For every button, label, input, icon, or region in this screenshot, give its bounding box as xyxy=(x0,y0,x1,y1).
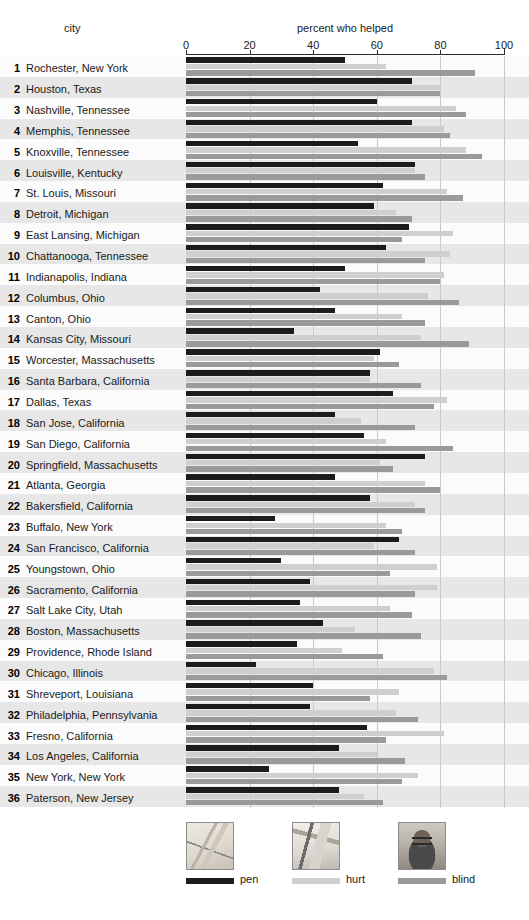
bar-pen xyxy=(186,787,339,792)
city-name: Louisville, Kentucky xyxy=(26,167,123,179)
legend-item-blind: blind xyxy=(398,822,504,902)
bar-blind xyxy=(186,466,393,471)
list-item: 33Fresno, California xyxy=(0,725,186,746)
rank-number: 11 xyxy=(0,271,26,283)
bar-pen xyxy=(186,620,323,625)
bar-blind xyxy=(186,383,421,388)
bar-hurt xyxy=(186,627,355,632)
bar-hurt xyxy=(186,293,428,298)
bar-blind xyxy=(186,675,447,680)
city-name: Rochester, New York xyxy=(26,62,128,74)
list-item: 14Kansas City, Missouri xyxy=(0,329,186,350)
list-item: 27Salt Lake City, Utah xyxy=(0,600,186,621)
city-name: Boston, Massachusetts xyxy=(26,625,140,637)
rank-number: 2 xyxy=(0,83,26,95)
bar-blind xyxy=(186,133,450,138)
bar-blind xyxy=(186,800,383,805)
bar-blind xyxy=(186,571,390,576)
rank-number: 28 xyxy=(0,625,26,637)
legend-swatch-blind xyxy=(398,878,446,884)
list-item: 25Youngstown, Ohio xyxy=(0,558,186,579)
list-item: 1Rochester, New York xyxy=(0,58,186,79)
city-name: Worcester, Massachusetts xyxy=(26,354,155,366)
city-name: Detroit, Michigan xyxy=(26,208,109,220)
rank-number: 27 xyxy=(0,604,26,616)
blind-photo-art xyxy=(399,823,445,869)
chart-legend: penhurtblind xyxy=(186,822,504,902)
city-name: Memphis, Tennessee xyxy=(26,125,130,137)
legend-item-hurt: hurt xyxy=(292,822,398,902)
bar-pen xyxy=(186,245,386,250)
city-name: Columbus, Ohio xyxy=(26,292,105,304)
bar-blind xyxy=(186,300,459,305)
bar-hurt xyxy=(186,85,440,90)
rank-number: 33 xyxy=(0,730,26,742)
bar-hurt xyxy=(186,418,361,423)
list-item: 10Chattanooga, Tennessee xyxy=(0,246,186,267)
city-name: Indianapolis, Indiana xyxy=(26,271,127,283)
rank-number: 18 xyxy=(0,417,26,429)
city-name: Youngstown, Ohio xyxy=(26,563,115,575)
rank-number: 4 xyxy=(0,125,26,137)
city-name: Chicago, Illinois xyxy=(26,667,103,679)
bar-blind xyxy=(186,341,469,346)
bar-blind xyxy=(186,779,402,784)
bar-pen xyxy=(186,662,256,667)
rank-number: 24 xyxy=(0,542,26,554)
rank-number: 25 xyxy=(0,563,26,575)
bar-blind xyxy=(186,404,434,409)
bar-blind xyxy=(186,529,402,534)
helping-behavior-bar-chart: city percent who helped 020406080100 1Ro… xyxy=(0,0,529,920)
bar-hurt xyxy=(186,210,396,215)
bar-pen xyxy=(186,704,310,709)
list-item: 36Paterson, New Jersey xyxy=(0,788,186,809)
bar-pen xyxy=(186,287,320,292)
bar-hurt xyxy=(186,689,399,694)
rank-number: 7 xyxy=(0,187,26,199)
bar-blind xyxy=(186,174,425,179)
rank-number: 14 xyxy=(0,333,26,345)
city-name: Bakersfield, California xyxy=(26,500,133,512)
tick-mark-100 xyxy=(504,50,505,55)
bar-pen xyxy=(186,683,313,688)
bar-pen xyxy=(186,266,345,271)
list-item: 22Bakersfield, California xyxy=(0,496,186,517)
bar-pen xyxy=(186,537,399,542)
bar-blind xyxy=(186,612,412,617)
rank-number: 6 xyxy=(0,167,26,179)
tick-mark-80 xyxy=(440,50,441,55)
list-item: 16Santa Barbara, California xyxy=(0,371,186,392)
list-item: 28Boston, Massachusetts xyxy=(0,621,186,642)
bar-blind xyxy=(186,279,440,284)
bar-hurt xyxy=(186,64,386,69)
bar-hurt xyxy=(186,710,396,715)
bar-blind xyxy=(186,696,370,701)
list-item: 35New York, New York xyxy=(0,767,186,788)
city-name: Paterson, New Jersey xyxy=(26,792,134,804)
city-name: Sacramento, California xyxy=(26,584,138,596)
blind-photo xyxy=(398,822,446,870)
city-name: Nashville, Tennessee xyxy=(26,104,130,116)
list-item: 8Detroit, Michigan xyxy=(0,204,186,225)
bar-pen xyxy=(186,57,345,62)
rank-number: 10 xyxy=(0,250,26,262)
rank-number: 8 xyxy=(0,208,26,220)
bar-hurt xyxy=(186,585,437,590)
bar-hurt xyxy=(186,356,374,361)
bar-pen xyxy=(186,78,412,83)
bar-hurt xyxy=(186,168,415,173)
bar-hurt xyxy=(186,147,466,152)
rank-number: 22 xyxy=(0,500,26,512)
list-item: 9East Lansing, Michigan xyxy=(0,225,186,246)
tick-mark-60 xyxy=(377,50,378,55)
legend-label-pen: pen xyxy=(240,873,258,885)
bar-hurt xyxy=(186,481,425,486)
bar-hurt xyxy=(186,543,374,548)
list-item: 29Providence, Rhode Island xyxy=(0,642,186,663)
list-item: 7St. Louis, Missouri xyxy=(0,183,186,204)
chart-header: city percent who helped xyxy=(0,22,529,38)
bar-pen xyxy=(186,370,370,375)
list-item: 32Philadelphia, Pennsylvania xyxy=(0,704,186,725)
bar-pen xyxy=(186,474,335,479)
rank-number: 30 xyxy=(0,667,26,679)
